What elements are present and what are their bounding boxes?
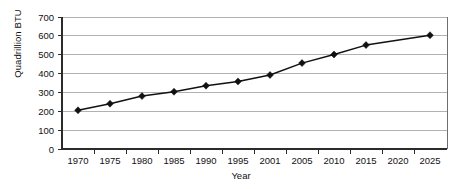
- y-tick-label-600: 600: [38, 30, 54, 41]
- chart-plot-area: 700 600 500 400 300 200 100 0: [0, 0, 474, 189]
- x-tick-label-2005: 2005: [291, 155, 312, 166]
- y-tick-label-0: 0: [49, 144, 54, 155]
- series-line-energy-consumption: [78, 35, 430, 110]
- data-point-1970: [75, 107, 82, 114]
- data-point-2019: [363, 42, 370, 49]
- x-tick-label-2020: 2020: [387, 155, 408, 166]
- y-tick-label-700: 700: [38, 12, 54, 23]
- data-point-1999: [235, 78, 242, 85]
- y-tick-label-300: 300: [38, 87, 54, 98]
- x-tick-label-1995: 1995: [227, 155, 248, 166]
- x-tick-label-1980: 1980: [131, 155, 152, 166]
- data-point-1986: [171, 88, 178, 95]
- y-tick-label-400: 400: [38, 68, 54, 79]
- y-tick-label-500: 500: [38, 49, 54, 60]
- x-tick-label-1975: 1975: [99, 155, 120, 166]
- data-point-2003: [267, 72, 274, 79]
- x-tick-label-2010: 2010: [323, 155, 344, 166]
- x-tick-label-2015: 2015: [355, 155, 376, 166]
- y-tick-label-100: 100: [38, 125, 54, 136]
- x-axis-title-text: Year: [231, 170, 250, 181]
- data-point-1992: [203, 82, 210, 89]
- x-tick-label-2001: 2001: [259, 155, 280, 166]
- x-tick-label-1970: 1970: [67, 155, 88, 166]
- line-chart: Quadrillion BTU 700 600 500 400 300 200 …: [0, 0, 474, 189]
- x-tick-label-2025: 2025: [419, 155, 440, 166]
- series-markers: [75, 32, 434, 114]
- x-tick-label-1990: 1990: [195, 155, 216, 166]
- data-point-2013: [331, 51, 338, 58]
- x-axis-title: Year: [0, 170, 474, 181]
- data-point-2008: [299, 60, 306, 67]
- data-point-1981: [139, 93, 146, 100]
- x-tick-label-1985: 1985: [163, 155, 184, 166]
- data-point-1976: [107, 100, 114, 107]
- data-point-2024: [427, 32, 434, 39]
- y-tick-label-200: 200: [38, 106, 54, 117]
